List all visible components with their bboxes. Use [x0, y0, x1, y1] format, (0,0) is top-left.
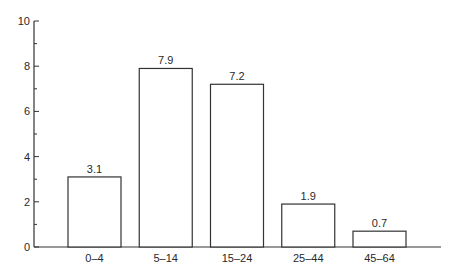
y-tick-label: 8	[24, 60, 30, 72]
bars: 3.17.97.21.90.7	[68, 54, 406, 247]
bar-group: 7.2	[211, 70, 264, 247]
x-category-label: 0–4	[85, 252, 103, 264]
bar	[211, 84, 264, 247]
bar-chart: 0246810 0–45–1415–2425–4445–64 3.17.97.2…	[0, 0, 458, 277]
y-axis: 0246810	[18, 15, 39, 253]
bar-group: 0.7	[353, 217, 406, 247]
y-tick-label: 0	[24, 241, 30, 253]
x-category-label: 5–14	[154, 252, 178, 264]
x-category-label: 45–64	[364, 252, 395, 264]
bar	[282, 204, 335, 247]
x-category-label: 15–24	[222, 252, 253, 264]
y-tick-label: 2	[24, 196, 30, 208]
bar	[139, 68, 192, 247]
bar-group: 7.9	[139, 54, 192, 247]
bar-group: 1.9	[282, 190, 335, 247]
bar-value-label: 7.9	[158, 54, 173, 66]
x-category-label: 25–44	[293, 252, 324, 264]
bar	[68, 177, 121, 247]
bar-value-label: 0.7	[372, 217, 387, 229]
bar-group: 3.1	[68, 163, 121, 247]
x-axis: 0–45–1415–2425–4445–64	[34, 247, 441, 264]
y-tick-label: 4	[24, 151, 30, 163]
bar-value-label: 3.1	[87, 163, 102, 175]
bar	[353, 231, 406, 247]
y-tick-label: 10	[18, 15, 30, 27]
bar-value-label: 1.9	[301, 190, 316, 202]
bar-value-label: 7.2	[229, 70, 244, 82]
y-tick-label: 6	[24, 105, 30, 117]
